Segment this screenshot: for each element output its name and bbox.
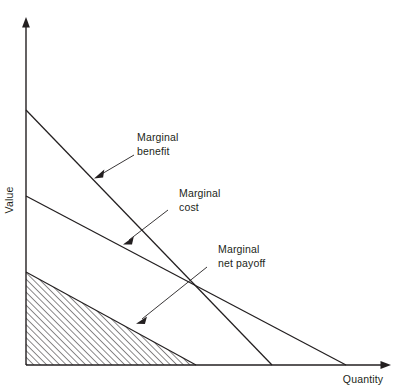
marginal-net-payoff-region — [26, 272, 196, 365]
marginal-cost-label-line1: Marginal — [179, 187, 220, 199]
marginal-benefit-label-line2: benefit — [137, 145, 170, 157]
figure-canvas: Marginal benefit Marginal cost Marginal … — [0, 0, 401, 388]
marginal-benefit-label: Marginal benefit — [137, 131, 178, 157]
marginal-cost-label: Marginal cost — [179, 187, 220, 213]
marginal-cost-label-line2: cost — [179, 201, 199, 213]
marginal-benefit-leader — [94, 155, 134, 179]
economics-figure: Marginal benefit Marginal cost Marginal … — [0, 0, 401, 388]
marginal-benefit-label-line1: Marginal — [137, 131, 178, 143]
marginal-cost-leader — [123, 210, 168, 245]
marginal-net-payoff-label-line2: net payoff — [218, 257, 265, 269]
marginal-net-payoff-label-line1: Marginal — [218, 243, 259, 255]
x-axis-label: Quantity — [343, 373, 384, 385]
marginal-net-payoff-leader — [136, 267, 207, 324]
marginal-net-payoff-label: Marginal net payoff — [218, 243, 265, 269]
y-axis-label: Value — [3, 187, 15, 214]
